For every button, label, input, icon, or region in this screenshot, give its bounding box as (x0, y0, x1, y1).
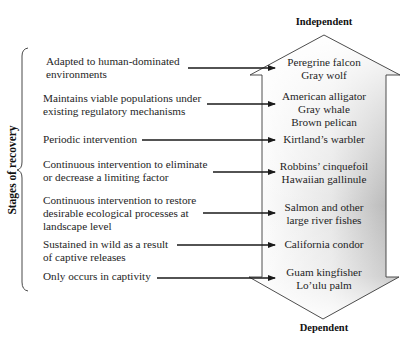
stage-5-species: Salmon and other large river fishes (262, 201, 386, 227)
stage-2-label: Maintains viable populations under exist… (43, 92, 201, 118)
recovery-stages-diagram: Stages of recovery Independent Dependent… (0, 0, 416, 347)
brace-icon (17, 48, 28, 291)
stage-2-species: American alligator Gray whale Brown peli… (262, 90, 386, 129)
axis-title: Stages of recovery (6, 125, 18, 214)
stage-6-species: California condor (262, 238, 386, 251)
stage-6-label: Sustained in wild as a result of captive… (43, 238, 168, 264)
stage-4-label: Continuous intervention to eliminate or … (43, 158, 207, 184)
bottom-label-dependent: Dependent (264, 322, 384, 333)
stage-5-label: Continuous intervention to restore desir… (43, 194, 196, 233)
stage-1-label: Adapted to human-dominated environments (46, 55, 180, 81)
stage-7-label: Only occurs in captivity (43, 270, 151, 283)
top-label-independent: Independent (264, 16, 384, 27)
stage-7-species: Guam kingfisher Lo’ulu palm (262, 266, 386, 292)
stage-1-species: Peregrine falcon Gray wolf (262, 56, 386, 82)
stage-3-species: Kirtland’s warbler (262, 133, 386, 146)
stage-4-species: Robbins’ cinquefoil Hawaiian gallinule (262, 160, 386, 186)
stage-3-label: Periodic intervention (43, 133, 137, 146)
